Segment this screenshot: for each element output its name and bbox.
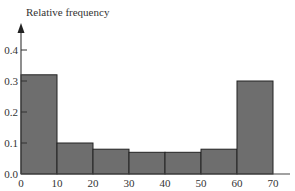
x-tick-label: 70 — [268, 177, 280, 189]
histogram-bar — [237, 81, 273, 174]
x-ticks-group: 010203040506070 — [18, 177, 279, 189]
y-tick-label: 0.1 — [4, 137, 18, 149]
histogram-bar — [201, 149, 237, 174]
x-tick-label: 10 — [52, 177, 64, 189]
y-tick-label: 0.0 — [4, 168, 18, 180]
x-tick-label: 50 — [196, 177, 208, 189]
histogram-bar — [129, 152, 165, 174]
x-tick-label: 40 — [160, 177, 172, 189]
x-tick-label: 30 — [124, 177, 136, 189]
bars-group — [21, 75, 273, 174]
histogram-chart: Relative frequency 0.00.10.20.30.4 01020… — [0, 0, 295, 191]
y-tick-label: 0.2 — [4, 106, 18, 118]
histogram-bar — [165, 152, 201, 174]
y-axis-label: Relative frequency — [26, 6, 110, 18]
histogram-bar — [21, 75, 57, 174]
y-tick-label: 0.3 — [4, 75, 18, 87]
x-tick-label: 60 — [232, 177, 244, 189]
y-tick-label: 0.4 — [4, 44, 18, 56]
histogram-bar — [93, 149, 129, 174]
x-tick-label: 20 — [88, 177, 100, 189]
histogram-bar — [57, 143, 93, 174]
chart-canvas: Relative frequency 0.00.10.20.30.4 01020… — [0, 0, 295, 191]
x-tick-label: 0 — [18, 177, 24, 189]
y-axis-arrow-icon — [18, 23, 25, 33]
